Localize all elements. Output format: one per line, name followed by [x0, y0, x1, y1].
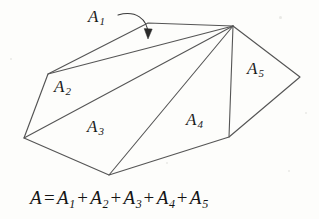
region-label-a3-letter: A [87, 117, 98, 136]
fan-edge-apex-bottom [109, 26, 233, 175]
equation-operator-4: + [175, 187, 190, 208]
region-label-a1-subscript: 1 [100, 15, 106, 27]
a1-pointer-arrow-head [144, 29, 152, 39]
region-label-a3: A3 [87, 118, 103, 135]
region-label-a3-subscript: 3 [99, 125, 105, 137]
equation-operator-3: + [142, 187, 157, 208]
equation-operator-1: + [75, 187, 90, 208]
region-label-a2-subscript: 2 [66, 85, 72, 97]
equation-sub-4: 4 [169, 197, 175, 211]
region-label-a1: A1 [88, 8, 104, 25]
equation-term-5: A [190, 187, 202, 208]
region-label-a2-letter: A [54, 77, 65, 96]
fan-edge-apex-bottom-right [229, 26, 233, 137]
equation-equals: = [42, 187, 57, 208]
equation-term-4: A [157, 187, 169, 208]
equation-term-2: A [90, 187, 102, 208]
region-label-a5-subscript: 5 [259, 67, 265, 79]
equation-lhs: A [30, 187, 42, 208]
area-sum-equation: A=A1+A2+A3+A4+A5 [30, 188, 208, 207]
equation-sub-1: 1 [69, 197, 75, 211]
equation-sub-5: 5 [202, 197, 208, 211]
equation-term-3: A [123, 187, 135, 208]
region-label-a2: A2 [54, 78, 70, 95]
region-label-a5-letter: A [247, 59, 258, 78]
region-label-a4-letter: A [186, 110, 197, 129]
region-label-a4-subscript: 4 [198, 118, 204, 130]
figure-canvas: A1 A2 A3 A4 A5 A=A1+A2+A3+A4+A5 [0, 0, 319, 219]
region-label-a4: A4 [186, 111, 202, 128]
equation-term-1: A [57, 187, 69, 208]
region-label-a1-letter: A [88, 7, 99, 26]
equation-operator-2: + [108, 187, 123, 208]
equation-sub-3: 3 [136, 197, 142, 211]
region-label-a5: A5 [247, 60, 263, 77]
equation-sub-2: 2 [103, 197, 109, 211]
fan-edge-apex-left [48, 26, 233, 74]
polygon-outline [24, 23, 300, 175]
